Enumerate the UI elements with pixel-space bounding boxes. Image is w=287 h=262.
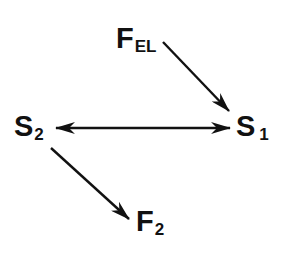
node-f2-main: F [136, 205, 154, 237]
node-f2: F2 [136, 207, 164, 236]
node-s2-main: S [14, 110, 33, 142]
node-s1-subscript: 1 [259, 125, 268, 144]
node-s2-subscript: 2 [34, 125, 43, 144]
edge-fel-to-s1-arrow [163, 42, 229, 111]
edge-s2-to-f2-arrow [51, 148, 129, 219]
node-f-el-subscript: EL [135, 37, 157, 56]
node-s1: S1 [236, 112, 269, 141]
node-f-el-main: F [116, 22, 134, 54]
node-f-el: FEL [116, 24, 156, 53]
node-f2-subscript: 2 [155, 220, 164, 239]
node-s1-main: S [236, 110, 255, 142]
diagram-canvas: FEL S2 S1 F2 [0, 0, 287, 262]
node-s2: S2 [14, 112, 44, 141]
